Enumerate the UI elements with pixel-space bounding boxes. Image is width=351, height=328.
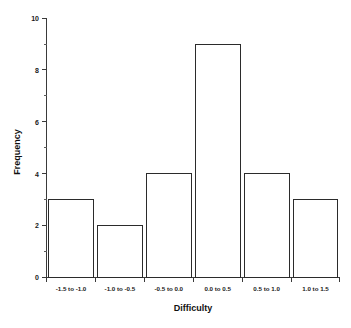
bar-bin-4[interactable] [195,44,240,278]
y-tick-label-4: 4 [35,171,39,178]
bar-bin-2[interactable] [97,226,142,278]
y-tick-label-6: 6 [35,119,39,126]
bar-bin-5[interactable] [244,174,289,278]
y-tick-label-2: 2 [35,222,39,229]
x-tick-label-bin-6: 1.0 to 1.5 [302,285,329,292]
y-tick-label-0: 0 [35,274,39,281]
x-axis-ticks [47,278,340,282]
x-tick-label-bin-1: -1.5 to -1.0 [56,285,87,292]
x-axis-title: Difficulty [174,303,213,313]
y-tick-label-10: 10 [31,15,39,22]
plot-area: 0 2 4 6 8 10 -1.5 to -1.0 -1.0 to -0.5 [0,0,351,328]
bar-bin-3[interactable] [146,174,191,278]
x-tick-label-bin-2: -1.0 to -0.5 [105,285,136,292]
y-tick-label-8: 8 [35,67,39,74]
x-tick-label-bin-3: -0.5 to 0.0 [155,285,184,292]
y-axis-title: Frequency [12,129,22,175]
x-tick-label-bin-4: 0.0 to 0.5 [204,285,231,292]
histogram-chart: 0 2 4 6 8 10 -1.5 to -1.0 -1.0 to -0.5 [0,0,351,328]
x-tick-label-bin-5: 0.5 to 1.0 [253,285,280,292]
bar-bin-6[interactable] [293,200,338,278]
bar-bin-1[interactable] [49,200,94,278]
bars-group [49,44,338,278]
